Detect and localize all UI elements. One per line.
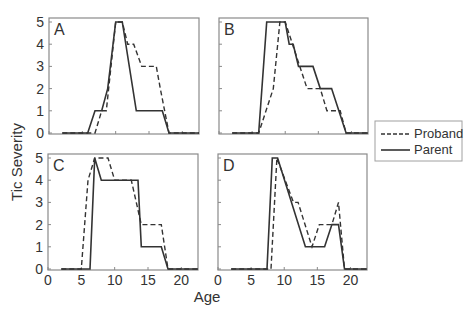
y-tick-label: 1 <box>35 239 43 255</box>
y-tick-label: 2 <box>35 217 43 233</box>
x-tick-label: 5 <box>247 272 255 288</box>
parent-series-line <box>231 158 367 269</box>
x-tick-label: 20 <box>174 272 190 288</box>
y-tick-label: 4 <box>35 172 43 188</box>
x-tick-label: 10 <box>107 272 123 288</box>
legend-proband-label: Proband <box>414 126 463 141</box>
y-tick-label: 0 <box>35 261 43 277</box>
panel-frame <box>219 18 368 134</box>
panel-letter: B <box>224 21 235 38</box>
y-tick-label: 4 <box>36 36 44 52</box>
x-tick-label: 0 <box>214 272 222 288</box>
y-tick-label: 3 <box>35 194 43 210</box>
y-axis-title: Tic Severity <box>8 123 25 201</box>
panel-letter: A <box>54 21 65 38</box>
panel-frame <box>218 154 367 270</box>
y-tick-label: 0 <box>36 125 44 141</box>
y-tick-label: 3 <box>36 58 44 74</box>
panel-b: B <box>219 18 368 134</box>
x-tick-label: 15 <box>310 272 326 288</box>
y-tick-label: 5 <box>36 14 44 30</box>
y-tick-label: 1 <box>36 103 44 119</box>
legend-parent-label: Parent <box>414 142 453 157</box>
panel-letter: D <box>223 157 235 174</box>
proband-series-line <box>231 158 367 269</box>
proband-series-line <box>61 158 198 269</box>
panel-c: 01234505101520C <box>35 150 198 288</box>
x-tick-label: 5 <box>77 272 85 288</box>
panel-frame <box>48 154 198 270</box>
panel-letter: C <box>53 157 65 174</box>
tic-severity-figure: Tic Severity Age 012345A B 0123450510152… <box>0 0 476 315</box>
parent-series-line <box>62 22 199 133</box>
parent-series-line <box>232 22 368 133</box>
x-tick-label: 0 <box>44 272 52 288</box>
panel-d: 05101520D <box>214 154 367 288</box>
y-tick-label: 2 <box>36 81 44 97</box>
proband-series-line <box>232 22 368 133</box>
x-tick-label: 10 <box>276 272 292 288</box>
y-tick-label: 5 <box>35 150 43 166</box>
panel-a: 012345A <box>36 14 199 141</box>
x-tick-label: 20 <box>343 272 359 288</box>
legend: Proband Parent <box>375 121 463 161</box>
x-axis-title: Age <box>194 288 221 305</box>
x-tick-label: 15 <box>140 272 156 288</box>
parent-series-line <box>61 158 198 269</box>
